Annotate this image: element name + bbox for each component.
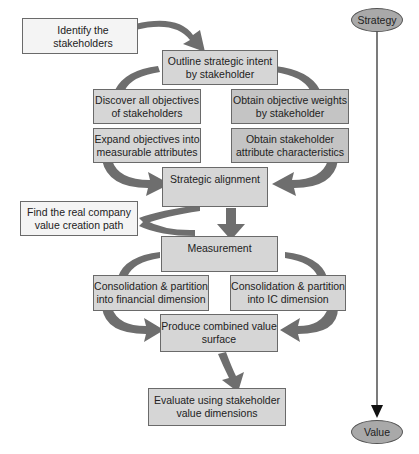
axis-end-value: Value bbox=[351, 420, 403, 444]
axis-label: Strategy bbox=[357, 14, 396, 26]
node-label: Obtain objective weights by stakeholder bbox=[232, 94, 348, 120]
node-strategic-alignment: Strategic alignment bbox=[162, 167, 268, 207]
node-label: Consolidation & partition into financial… bbox=[94, 280, 208, 306]
node-label: Evaluate using stakeholder value dimensi… bbox=[149, 394, 285, 420]
node-find-value-creation-path: Find the real company value creation pat… bbox=[20, 201, 138, 236]
node-label: Strategic alignment bbox=[170, 173, 260, 186]
node-measurement: Measurement bbox=[161, 236, 278, 272]
node-label: Discover all objectives of stakeholders bbox=[94, 94, 200, 120]
node-financial-dimension: Consolidation & partition into financial… bbox=[93, 275, 209, 311]
node-outline-strategic-intent: Outline strategic intent by stakeholder bbox=[162, 50, 278, 85]
node-discover-objectives: Discover all objectives of stakeholders bbox=[93, 89, 201, 124]
node-combined-value-surface: Produce combined value surface bbox=[160, 314, 278, 352]
node-label: Produce combined value surface bbox=[161, 320, 277, 346]
node-label: Obtain stakeholder attribute characteris… bbox=[232, 133, 348, 159]
node-obtain-objective-weights: Obtain objective weights by stakeholder bbox=[231, 89, 349, 124]
node-ic-dimension: Consolidation & partition into IC dimens… bbox=[230, 275, 346, 311]
node-obtain-attribute-characteristics: Obtain stakeholder attribute characteris… bbox=[231, 128, 349, 163]
node-label: Measurement bbox=[187, 242, 251, 255]
axis-label: Value bbox=[364, 426, 390, 438]
node-label: Identify the stakeholders bbox=[29, 24, 137, 50]
axis-start-strategy: Strategy bbox=[351, 8, 403, 32]
node-evaluate-stakeholder-dimensions: Evaluate using stakeholder value dimensi… bbox=[148, 388, 286, 426]
node-expand-objectives: Expand objectives into measurable attrib… bbox=[93, 128, 201, 163]
node-identify-stakeholders: Identify the stakeholders bbox=[22, 18, 138, 54]
node-label: Find the real company value creation pat… bbox=[21, 206, 137, 232]
node-label: Outline strategic intent by stakeholder bbox=[163, 55, 277, 81]
node-label: Expand objectives into measurable attrib… bbox=[94, 133, 200, 159]
node-label: Consolidation & partition into IC dimens… bbox=[231, 280, 345, 306]
